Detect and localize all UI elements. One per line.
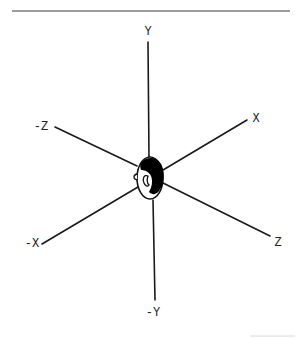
axis-line-neg-y (153, 200, 155, 300)
axes-diagram: Y -Y X -X Z -Z (0, 0, 299, 339)
axis-label-neg-y: -Y (146, 306, 160, 320)
axis-line-neg-x (42, 187, 138, 244)
axis-line-pos-x (163, 120, 247, 170)
axis-label-pos-y: Y (144, 25, 151, 39)
axis-label-pos-z: Z (274, 236, 281, 250)
axis-label-pos-x: X (252, 112, 259, 126)
head-icon (134, 157, 164, 199)
axis-line-pos-y (148, 42, 149, 158)
axis-label-neg-x: -X (25, 237, 39, 251)
axis-label-neg-z: -Z (34, 120, 48, 134)
axis-line-pos-z (163, 183, 270, 236)
axis-line-neg-z (55, 127, 137, 166)
